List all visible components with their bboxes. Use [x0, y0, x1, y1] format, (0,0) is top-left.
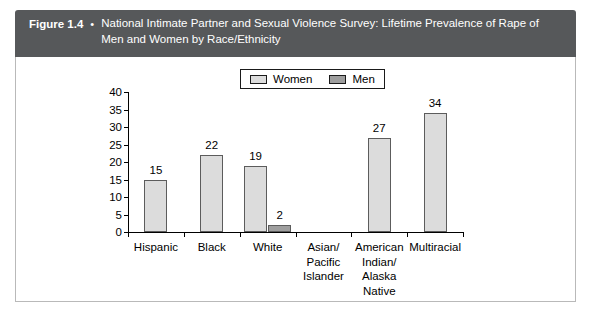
y-tick-label: 35 [109, 104, 122, 116]
x-tick-mark [128, 232, 129, 237]
x-category-label-line: American [355, 240, 404, 255]
x-category-label-line: Pacific [303, 255, 344, 270]
x-category-label: Black [198, 240, 226, 255]
x-category-label-line: Asian/ [303, 240, 344, 255]
legend-swatch-women [250, 75, 267, 84]
y-tick-mark [124, 197, 128, 198]
x-category-label-line: Hispanic [134, 240, 178, 255]
bar-value-label-women: 15 [150, 164, 163, 176]
x-category-label-line: Native [355, 284, 404, 299]
y-tick-mark [124, 180, 128, 181]
legend-entry-men: Men [329, 73, 374, 85]
figure-title: National Intimate Partner and Sexual Vio… [101, 16, 541, 47]
x-category-label: White [253, 240, 282, 255]
x-tick-mark [351, 232, 352, 237]
y-tick-label: 10 [109, 191, 122, 203]
y-tick-label: 30 [109, 121, 122, 133]
x-tick-mark [296, 232, 297, 237]
legend-label-women: Women [273, 73, 312, 85]
bar-women [424, 113, 447, 232]
x-category-label-line: Multiracial [409, 240, 461, 255]
header-row: Figure 1.4 • National Intimate Partner a… [29, 16, 562, 47]
x-tick-mark [240, 232, 241, 237]
y-tick-label: 25 [109, 139, 122, 151]
legend-label-men: Men [352, 73, 374, 85]
y-tick-mark [124, 215, 128, 216]
x-category-label: Multiracial [409, 240, 461, 255]
plot-area: 051015202530354015Hispanic22Black192Whit… [128, 92, 463, 232]
y-tick-mark [124, 110, 128, 111]
bar-chart: WomenMen 051015202530354015Hispanic22Bla… [16, 57, 577, 302]
y-tick-label: 20 [109, 156, 122, 168]
bar-value-label-women: 22 [205, 139, 218, 151]
x-tick-mark [407, 232, 408, 237]
chart-frame: WomenMen 051015202530354015Hispanic22Bla… [15, 57, 576, 302]
y-tick-label: 40 [109, 86, 122, 98]
legend-entry-women: Women [250, 73, 312, 85]
x-tick-mark [184, 232, 185, 237]
bar-women [368, 138, 391, 233]
figure-container: Figure 1.4 • National Intimate Partner a… [0, 0, 591, 318]
y-tick-mark [124, 145, 128, 146]
bar-value-label-women: 34 [429, 97, 442, 109]
bar-value-label-women: 27 [373, 122, 386, 134]
x-category-label-line: White [253, 240, 282, 255]
y-tick-label: 15 [109, 174, 122, 186]
y-tick-label: 0 [116, 226, 122, 238]
y-tick-label: 5 [116, 209, 122, 221]
bar-value-label-men: 2 [276, 209, 282, 221]
bar-men [268, 225, 291, 232]
y-tick-mark [124, 127, 128, 128]
x-category-label-line: Indian/ [355, 255, 404, 270]
x-category-label-line: Black [198, 240, 226, 255]
bullet-icon: • [83, 16, 101, 32]
x-tick-mark [463, 232, 464, 237]
y-tick-mark [124, 92, 128, 93]
bar-women [244, 166, 267, 233]
chart-legend: WomenMen [240, 69, 385, 89]
figure-header-banner: Figure 1.4 • National Intimate Partner a… [15, 10, 576, 57]
x-category-label: Asian/PacificIslander [303, 240, 344, 284]
bar-value-label-women: 19 [249, 150, 262, 162]
x-category-label: AmericanIndian/AlaskaNative [355, 240, 404, 298]
figure-number-label: Figure 1.4 [29, 16, 83, 32]
bar-women [200, 155, 223, 232]
y-tick-mark [124, 162, 128, 163]
x-category-label-line: Alaska [355, 269, 404, 284]
bar-women [144, 180, 167, 233]
x-category-label-line: Islander [303, 269, 344, 284]
legend-swatch-men [329, 75, 346, 84]
x-category-label: Hispanic [134, 240, 178, 255]
